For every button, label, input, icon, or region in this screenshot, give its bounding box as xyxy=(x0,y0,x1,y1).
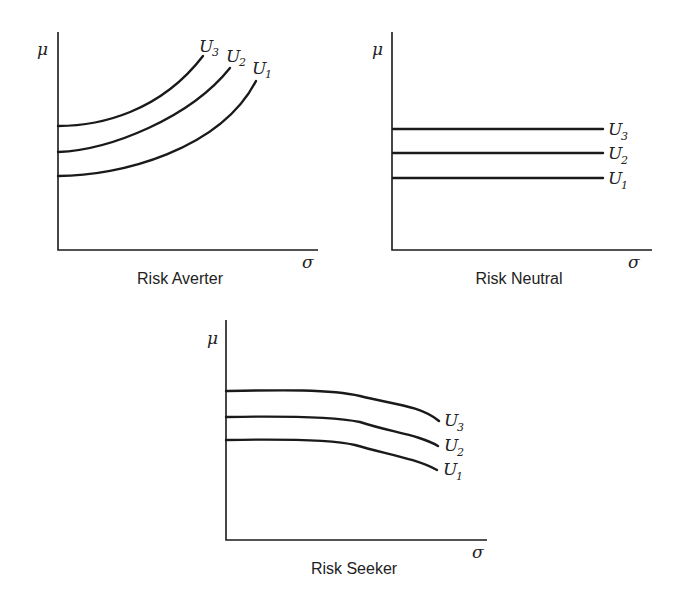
panel-title: Risk Neutral xyxy=(475,270,562,287)
indifference-curves-diagram: μ σ U 3 U 2 U 1 Risk Averter μ σ U 3 U xyxy=(0,0,681,601)
label-u2: U 2 xyxy=(608,143,628,167)
label-u2: U 2 xyxy=(444,435,464,459)
label-u1: U 1 xyxy=(443,459,463,483)
x-axis-label: σ xyxy=(628,252,640,272)
svg-text:1: 1 xyxy=(621,179,628,192)
svg-text:2: 2 xyxy=(620,154,628,167)
svg-text:2: 2 xyxy=(238,56,246,69)
axes xyxy=(58,32,318,250)
panel-risk-averter: μ σ U 3 U 2 U 1 Risk Averter xyxy=(37,32,318,287)
svg-text:3: 3 xyxy=(212,46,219,59)
y-axis-label: μ xyxy=(37,39,48,59)
label-u2: U 2 xyxy=(226,46,246,69)
svg-text:1: 1 xyxy=(456,470,463,483)
axes xyxy=(226,320,487,540)
curve-u2 xyxy=(58,68,230,152)
y-axis-label: μ xyxy=(372,39,383,59)
label-u1: U 1 xyxy=(252,58,272,81)
svg-text:3: 3 xyxy=(621,130,628,143)
label-u1: U 1 xyxy=(608,168,628,192)
curve-u3 xyxy=(58,56,203,126)
x-axis-label: σ xyxy=(472,542,484,562)
panel-risk-neutral: μ σ U 3 U 2 U 1 Risk Neutral xyxy=(372,32,652,287)
x-axis-label: σ xyxy=(302,252,314,272)
svg-text:2: 2 xyxy=(456,446,464,459)
label-u3: U 3 xyxy=(444,410,464,434)
label-u3: U 3 xyxy=(199,36,219,59)
curve-u1 xyxy=(226,440,437,470)
panel-risk-seeker: μ σ U 3 U 2 U 1 Risk Seeker xyxy=(207,320,487,577)
axes xyxy=(392,32,652,250)
svg-text:3: 3 xyxy=(457,421,464,434)
panel-title: Risk Seeker xyxy=(311,560,398,577)
panel-title: Risk Averter xyxy=(137,270,224,287)
curve-u1 xyxy=(58,81,256,176)
svg-text:1: 1 xyxy=(265,68,272,81)
y-axis-label: μ xyxy=(207,328,218,348)
label-u3: U 3 xyxy=(608,119,628,143)
